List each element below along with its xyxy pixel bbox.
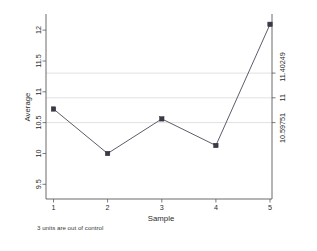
y-tick-label-12: 12 xyxy=(34,26,43,34)
right-axis-limit-labels: 10.59751 11 11.40249 xyxy=(278,52,287,143)
y-tick-label-10: 10 xyxy=(34,150,43,158)
y-axis-ticks xyxy=(43,30,47,184)
data-point-1 xyxy=(51,107,55,111)
data-point-2 xyxy=(105,151,109,155)
x-axis-ticks xyxy=(54,199,271,203)
x-tick-label-1: 1 xyxy=(52,203,56,212)
upper-control-limit-label: 11.40249 xyxy=(278,52,287,81)
out-of-control-caption: 3 units are out of control xyxy=(37,224,103,231)
center-line-label: 11 xyxy=(278,94,287,101)
control-chart: 9.5 10 10.5 11 11.5 12 Average 1 2 3 4 5… xyxy=(0,0,317,251)
lower-control-limit-label: 10.59751 xyxy=(278,113,287,143)
data-point-3 xyxy=(160,117,164,121)
y-axis-tick-labels: 9.5 10 10.5 11 11.5 12 xyxy=(34,26,43,189)
data-point-5 xyxy=(268,22,272,26)
y-tick-label-11: 11 xyxy=(34,88,43,95)
y-tick-label-9-5: 9.5 xyxy=(34,179,43,189)
y-axis-title: Average xyxy=(23,93,32,122)
chart-canvas: 9.5 10 10.5 11 11.5 12 Average 1 2 3 4 5… xyxy=(0,0,317,251)
plot-area-background xyxy=(46,14,272,199)
x-tick-label-4: 4 xyxy=(214,203,218,212)
data-point-4 xyxy=(214,143,218,147)
right-axis-ticks xyxy=(272,73,276,123)
x-axis-title: Sample xyxy=(148,214,174,223)
x-tick-label-2: 2 xyxy=(106,203,110,212)
y-tick-label-11-5: 11.5 xyxy=(34,54,43,67)
x-axis-tick-labels: 1 2 3 4 5 xyxy=(52,203,273,212)
x-tick-label-5: 5 xyxy=(268,203,272,212)
y-tick-label-10-5: 10.5 xyxy=(34,116,43,130)
x-tick-label-3: 3 xyxy=(160,203,164,212)
